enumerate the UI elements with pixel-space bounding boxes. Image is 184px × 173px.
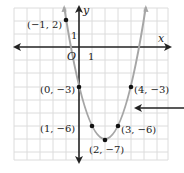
- y-axis-label: y: [82, 4, 90, 17]
- point-0-neg3: [77, 85, 82, 90]
- parabola-graph: y x O 1 1 (−1, 2) (0, −3) (1, −6) (2, −7…: [0, 0, 184, 173]
- point-1-neg6: [90, 124, 95, 129]
- point-label-1-neg6: (1, −6): [40, 123, 75, 134]
- origin-label: O: [67, 50, 76, 63]
- point-label-3-neg6: (3, −6): [121, 124, 156, 135]
- point-label-4-neg3: (4, −3): [134, 84, 169, 95]
- point-label-2-neg7: (2, −7): [89, 144, 124, 155]
- y-tick-label: 1: [71, 30, 77, 41]
- point-3-neg6: [116, 124, 121, 129]
- x-axis-label: x: [158, 32, 165, 45]
- point-label-neg1-2: (−1, 2): [27, 19, 62, 30]
- point-neg1-2: [64, 18, 69, 23]
- x-tick-label: 1: [88, 51, 94, 62]
- point-label-0-neg3: (0, −3): [40, 84, 75, 95]
- point-2-neg7: [103, 138, 108, 143]
- point-4-neg3: [129, 85, 134, 90]
